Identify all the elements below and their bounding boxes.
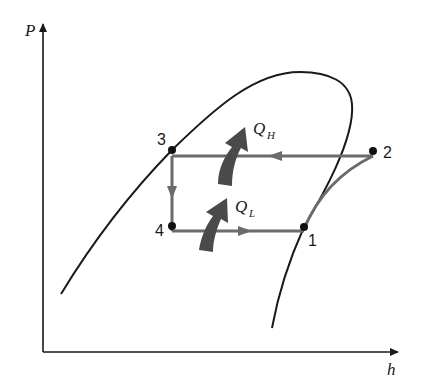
arrow-3-4-icon	[167, 186, 177, 199]
state-label-4: 4	[155, 222, 164, 239]
state-point-1	[300, 223, 308, 231]
heat-label-ql: Q L	[235, 197, 255, 219]
arrow-2-3-icon	[268, 151, 282, 161]
state-point-3	[168, 146, 176, 154]
y-axis-label: P	[24, 21, 35, 40]
state-label-1: 1	[308, 232, 317, 249]
svg-text:H: H	[266, 129, 276, 141]
svg-text:Q: Q	[253, 119, 265, 138]
ph-diagram: P h 1 2 3 4 Q H Q L	[0, 0, 423, 381]
heat-label-qh: Q H	[253, 119, 276, 141]
svg-text:Q: Q	[235, 197, 247, 216]
state-point-4	[168, 222, 176, 230]
svg-text:L: L	[248, 207, 255, 219]
x-axis-label: h	[387, 360, 396, 379]
state-label-3: 3	[157, 131, 166, 148]
process-1-2	[304, 156, 373, 229]
arrow-4-1-icon	[238, 226, 252, 236]
state-point-2	[369, 147, 377, 155]
saturation-dome	[61, 72, 352, 328]
state-label-2: 2	[383, 144, 392, 161]
axes	[43, 24, 398, 352]
heat-absorption-arrow-icon	[199, 198, 228, 252]
refrigeration-cycle	[167, 151, 373, 236]
